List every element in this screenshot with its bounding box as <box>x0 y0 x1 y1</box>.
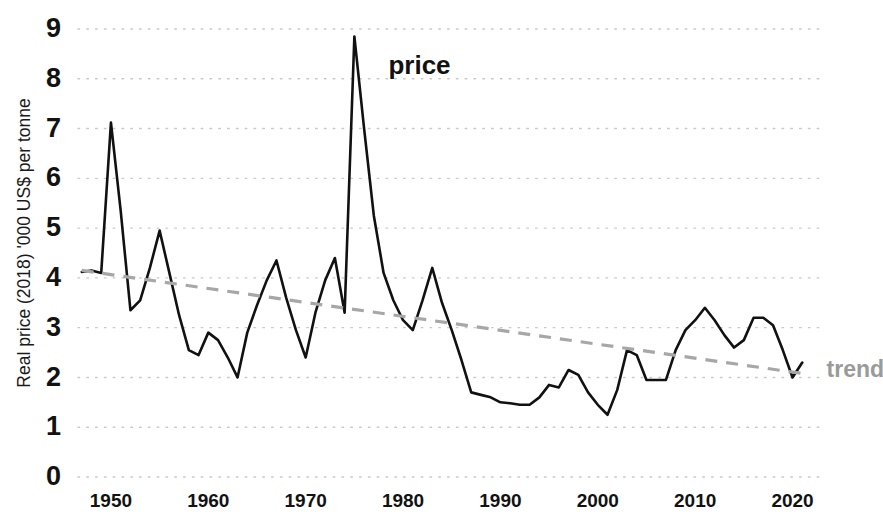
y-tick-label-7: 7 <box>46 113 61 143</box>
y-tick-label-2: 2 <box>46 362 61 392</box>
x-tick-label-2000: 2000 <box>577 490 619 511</box>
y-tick-label-5: 5 <box>46 212 61 242</box>
y-tick-label-6: 6 <box>46 162 61 192</box>
annotations-group: pricetrend <box>388 50 883 383</box>
y-axis-tick-labels: 0123456789 <box>46 13 61 491</box>
gridlines-group <box>78 29 824 477</box>
x-tick-label-2010: 2010 <box>674 490 716 511</box>
y-tick-label-9: 9 <box>46 13 61 43</box>
commodity-price-chart: 0123456789 19501960197019801990200020102… <box>0 0 883 522</box>
x-tick-label-2020: 2020 <box>771 490 813 511</box>
y-tick-label-0: 0 <box>46 461 61 491</box>
y-tick-label-1: 1 <box>46 411 61 441</box>
y-tick-label-8: 8 <box>46 63 61 93</box>
chart-container: 0123456789 19501960197019801990200020102… <box>0 0 883 522</box>
x-tick-label-1970: 1970 <box>285 490 327 511</box>
y-axis-title: Real price (2018) '000 US$ per tonne <box>14 98 34 387</box>
series-annotation-price: price <box>388 50 450 80</box>
y-tick-label-4: 4 <box>46 262 61 292</box>
series-group <box>82 36 803 414</box>
x-tick-label-1950: 1950 <box>90 490 132 511</box>
x-axis-tick-labels: 19501960197019801990200020102020 <box>90 490 814 511</box>
x-tick-label-1960: 1960 <box>187 490 229 511</box>
x-tick-label-1990: 1990 <box>479 490 521 511</box>
y-tick-label-3: 3 <box>46 312 61 342</box>
series-annotation-trend: trend <box>827 356 883 382</box>
x-tick-label-1980: 1980 <box>382 490 424 511</box>
